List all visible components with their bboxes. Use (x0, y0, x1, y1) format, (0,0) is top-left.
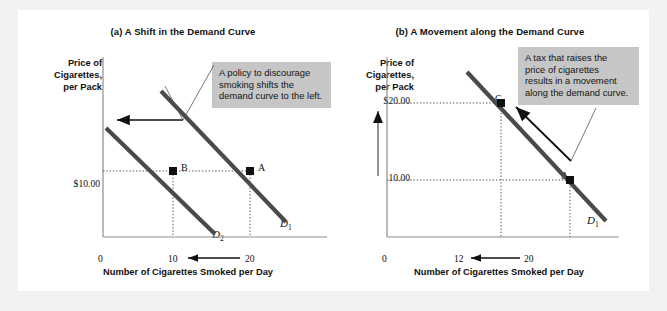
panel-b-callout-leader (571, 108, 596, 161)
figure-card: (a) A Shift in the Demand Curve Price of… (18, 10, 649, 291)
panel-a-point-a (246, 167, 254, 175)
figure-root: (a) A Shift in the Demand Curve Price of… (0, 0, 667, 311)
panel-a-demand-curve-d2 (106, 128, 215, 234)
panel-b-point-c (497, 99, 505, 107)
panel-a-point-b (169, 167, 177, 175)
panel-b-demand-curve-d1 (467, 72, 606, 221)
panel-b-plot (334, 10, 650, 291)
panel-b-point-a (566, 176, 574, 184)
panel-a-plot (18, 10, 334, 291)
panel-a-shift-in-demand-curve: (a) A Shift in the Demand Curve Price of… (18, 10, 334, 291)
panel-a-callout-leader-lower (165, 86, 183, 120)
panel-a-callout-leader-upper (183, 65, 214, 120)
panel-b-movement-along-demand-curve: (b) A Movement along the Demand Curve Pr… (334, 10, 650, 291)
